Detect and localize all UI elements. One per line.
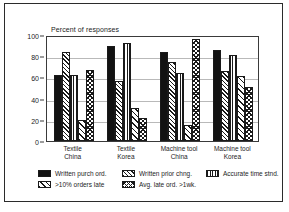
x-axis-category-label-line: Machine tool [153,145,206,153]
legend-label: Accurate time stnd. [223,170,279,177]
y-axis-tick-label: 100 [27,33,39,40]
x-axis-category-labels: TextileChinaTextileKoreaMachine toolChin… [46,145,259,167]
bar [192,39,200,141]
bar [107,46,115,141]
x-axis-category-label-line: Korea [206,153,259,161]
x-axis-category-label-line: Textile [99,145,152,153]
y-axis-tick-mark [40,120,44,121]
x-axis-category-label: TextileKorea [99,145,152,161]
y-axis-tick-label: 60 [31,75,39,82]
bar [54,75,62,141]
y-axis: 020406080100 [22,36,44,142]
bar [131,108,139,141]
legend-swatch [38,170,51,177]
legend-label: Written prior chng. [139,170,192,177]
y-axis-tick-mark [40,142,44,143]
x-axis-category-label-line: Textile [46,145,99,153]
x-axis-category-label: Machine toolKorea [206,145,259,161]
y-axis-tick-label: 0 [35,139,39,146]
bar [229,55,237,141]
y-axis-tick-label: 40 [31,96,39,103]
legend-swatch [206,170,219,177]
bar-group [47,37,100,141]
y-axis-tick-mark [40,36,44,37]
bar [213,50,221,141]
x-axis-category-label-line: Machine tool [206,145,259,153]
chart-title: Percent of responses [51,26,119,33]
bar-group [100,37,153,141]
bar [78,120,86,141]
y-axis-tick-label: 80 [31,54,39,61]
legend-swatch [38,181,51,188]
bar [184,125,192,141]
legend-item[interactable]: Written purch ord. [38,168,107,179]
y-axis-tick-mark [40,99,44,100]
legend-row-1: Written purch ord.Written prior chng.Acc… [38,168,278,179]
bar [139,118,147,141]
legend-item[interactable]: >10% orders late [38,179,104,190]
bar [70,75,78,141]
legend-item[interactable]: Avg. late ord. >1wk. [122,179,196,190]
bar [168,62,176,142]
bar [115,81,123,141]
plot-area [46,36,259,142]
bar [221,71,229,141]
y-axis-tick-mark [40,57,44,58]
bar [123,43,131,141]
bar [160,52,168,141]
x-axis-category-label: Machine toolChina [153,145,206,161]
legend-item[interactable]: Accurate time stnd. [206,168,279,179]
figure-frame: Percent of responses 020406080100 Textil… [4,3,283,202]
legend-swatch [122,170,135,177]
bar [245,87,253,141]
legend-swatch [122,181,135,188]
bar-group [154,37,207,141]
y-axis-tick-mark [40,78,44,79]
x-axis-category-label: TextileChina [46,145,99,161]
bars-layer [47,37,258,141]
legend-row-2: >10% orders lateAvg. late ord. >1wk. [38,179,278,190]
bar [176,73,184,141]
y-axis-tick-label: 20 [31,117,39,124]
chart-legend: Written purch ord.Written prior chng.Acc… [38,168,278,194]
bar [237,76,245,141]
legend-label: >10% orders late [55,181,104,188]
legend-item[interactable]: Written prior chng. [122,168,192,179]
x-axis-category-label-line: China [153,153,206,161]
legend-label: Written purch ord. [55,170,107,177]
chart-container: Percent of responses 020406080100 Textil… [5,4,284,203]
x-axis-category-label-line: China [46,153,99,161]
bar-group [207,37,260,141]
bar [86,70,94,141]
x-axis-category-label-line: Korea [99,153,152,161]
bar [62,52,70,141]
legend-label: Avg. late ord. >1wk. [139,181,196,188]
